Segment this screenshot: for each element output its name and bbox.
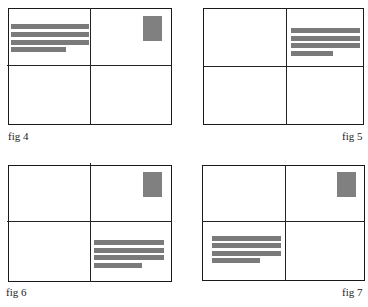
vertical-divider	[285, 165, 286, 281]
stamp-box	[143, 16, 162, 41]
figure-caption: fig 6	[6, 286, 26, 298]
figure-caption: fig 5	[342, 130, 362, 142]
horizontal-divider	[7, 65, 172, 66]
text-line-bar	[11, 47, 66, 52]
text-line-bar	[94, 263, 142, 268]
text-line-bar	[94, 255, 164, 260]
text-line-bar	[291, 36, 360, 41]
figure-caption: fig 7	[342, 286, 362, 298]
text-line-bar	[94, 248, 164, 253]
text-line-bar	[212, 236, 281, 241]
text-line-bar	[212, 251, 281, 256]
horizontal-divider	[202, 221, 365, 222]
text-line-bar	[212, 243, 281, 248]
horizontal-divider	[203, 66, 364, 67]
text-line-bar	[291, 51, 333, 56]
vertical-divider	[90, 163, 91, 282]
text-line-bar	[291, 43, 360, 48]
text-line-bar	[11, 40, 89, 45]
horizontal-divider	[7, 221, 172, 222]
text-line-bar	[94, 240, 164, 245]
text-line-bar	[11, 24, 89, 29]
vertical-divider	[90, 8, 91, 125]
stamp-box	[337, 172, 356, 197]
stamp-box	[143, 172, 162, 197]
figure-caption: fig 4	[8, 130, 28, 142]
text-line-bar	[212, 258, 260, 263]
text-line-bar	[291, 28, 360, 33]
text-line-bar	[11, 32, 89, 37]
